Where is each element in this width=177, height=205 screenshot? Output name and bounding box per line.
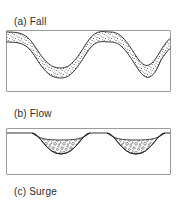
panel-fall-diagram	[6, 30, 171, 92]
panel-caption-flow: (b) Flow	[14, 108, 52, 119]
panel-flow-diagram	[6, 128, 171, 175]
panel-flow-background	[7, 129, 171, 175]
panel-caption-surge: (c) Surge	[14, 186, 57, 197]
figure-root: (a) Fall (b) Flow	[0, 0, 177, 205]
panel-caption-fall: (a) Fall	[14, 16, 47, 27]
